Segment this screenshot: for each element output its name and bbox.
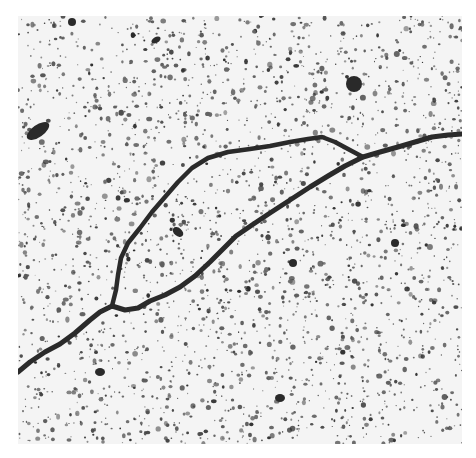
debris-blob bbox=[275, 394, 285, 402]
debris-blob bbox=[68, 18, 76, 26]
debris-blob bbox=[391, 239, 399, 247]
debris-blob bbox=[95, 368, 105, 376]
debris-blob bbox=[346, 76, 362, 92]
micrograph-image bbox=[18, 16, 462, 444]
micrograph-canvas bbox=[18, 16, 462, 444]
debris-blob bbox=[289, 259, 297, 267]
